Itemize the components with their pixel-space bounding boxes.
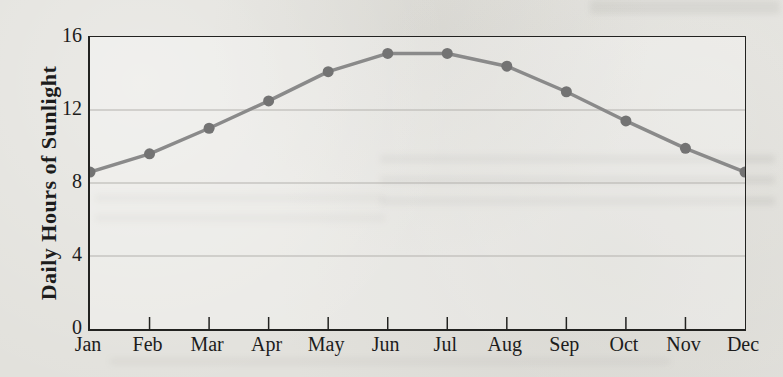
- x-tick-label: May: [308, 334, 345, 354]
- x-tick-label: Oct: [609, 334, 638, 354]
- x-tick-label: Nov: [666, 334, 700, 354]
- x-tick-label: Aug: [488, 334, 522, 354]
- x-tick-label: Mar: [190, 334, 223, 354]
- bleed-through-artifact: [590, 0, 780, 14]
- y-axis-title: Daily Hours of Sunlight: [36, 37, 62, 329]
- x-tick-label: Apr: [251, 334, 282, 354]
- x-tick-label: Feb: [133, 334, 163, 354]
- y-tick-label: 16: [62, 25, 82, 45]
- line-series-svg: [90, 37, 745, 329]
- y-tick-label: 12: [62, 98, 82, 118]
- x-tick-label: Jan: [75, 334, 102, 354]
- y-tick-label: 8: [72, 171, 82, 191]
- y-tick-label: 4: [72, 244, 82, 264]
- x-tick-label: Dec: [727, 334, 759, 354]
- x-tick-label: Jun: [372, 334, 400, 354]
- x-tick-label: Sep: [549, 334, 579, 354]
- plot-area: [88, 36, 746, 331]
- scanned-page: Daily Hours of Sunlight 0481216 JanFebMa…: [0, 0, 783, 377]
- x-tick-label: Jul: [434, 334, 457, 354]
